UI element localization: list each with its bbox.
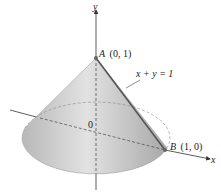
- origin-label: 0: [88, 119, 93, 130]
- point-b-coords: (1, 0): [181, 141, 203, 153]
- x-axis-label: x: [210, 154, 216, 165]
- point-b-name: B: [170, 141, 176, 152]
- point-a-name: A: [98, 48, 106, 59]
- x-axis-back: [10, 110, 40, 118]
- y-axis-label: y: [92, 1, 98, 12]
- point-b: [163, 148, 167, 152]
- line-label-leader: [126, 80, 140, 88]
- point-a-label: A (0, 1): [98, 48, 131, 60]
- point-a-coords: (0, 1): [110, 48, 132, 60]
- line-equation-label: x + y = 1: [135, 68, 173, 79]
- point-a: [94, 56, 98, 60]
- cone-diagram: y x 0 A (0, 1) B (1, 0) x + y = 1: [0, 0, 221, 194]
- point-b-label: B (1, 0): [170, 141, 202, 153]
